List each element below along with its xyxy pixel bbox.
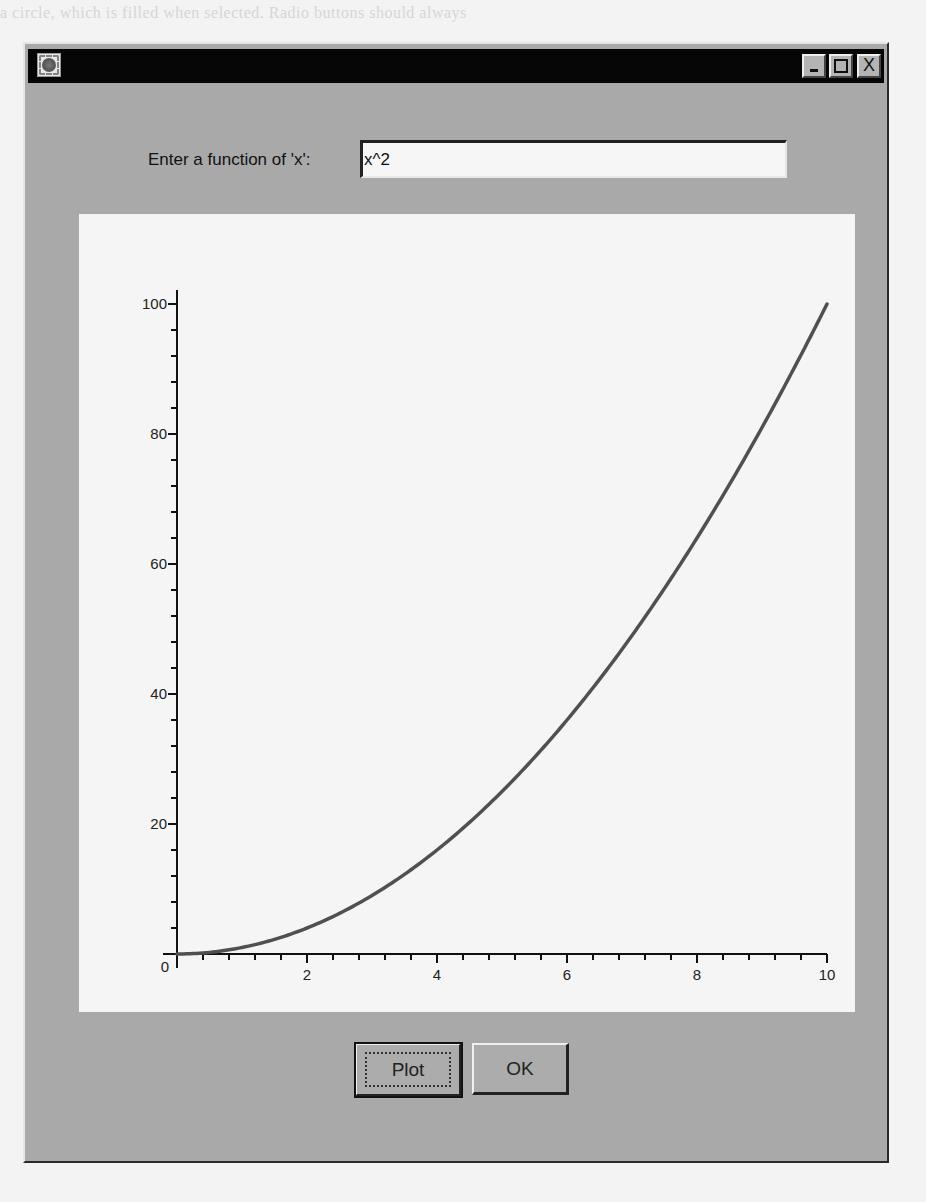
ok-button-label: OK: [506, 1058, 533, 1080]
x-tick-label: 6: [563, 966, 571, 983]
maximize-icon: [834, 59, 848, 73]
plot-button[interactable]: Plot: [355, 1043, 462, 1097]
y-tick-label: 60: [150, 555, 167, 572]
y-tick-label: 0: [161, 958, 169, 975]
minimize-icon: [810, 69, 818, 72]
window-menu-icon[interactable]: [37, 53, 61, 77]
maximize-button[interactable]: [829, 54, 853, 78]
plot-dialog-window: X Enter a function of 'x': 2468100204060…: [23, 42, 889, 1163]
x-tick-label: 8: [693, 966, 701, 983]
y-tick-label: 40: [150, 685, 167, 702]
minimize-button[interactable]: [802, 54, 826, 78]
background-page-text: a circle, which is filled when selected.…: [0, 4, 926, 22]
y-tick-label: 80: [150, 425, 167, 442]
y-tick-label: 100: [142, 295, 167, 312]
close-icon: X: [863, 55, 875, 75]
close-button[interactable]: X: [857, 54, 881, 78]
function-chart: 246810020406080100x: [79, 214, 855, 1012]
function-curve: [177, 304, 827, 954]
function-label: Enter a function of 'x':: [148, 148, 310, 172]
ok-button[interactable]: OK: [472, 1043, 569, 1095]
function-input[interactable]: [360, 140, 787, 178]
x-tick-label: 4: [433, 966, 441, 983]
plot-area: 246810020406080100x: [79, 214, 855, 1012]
focus-indicator: [365, 1052, 451, 1087]
y-tick-label: 20: [150, 815, 167, 832]
title-bar[interactable]: X: [28, 49, 884, 83]
x-tick-label: 10: [819, 966, 836, 983]
x-tick-label: 2: [303, 966, 311, 983]
